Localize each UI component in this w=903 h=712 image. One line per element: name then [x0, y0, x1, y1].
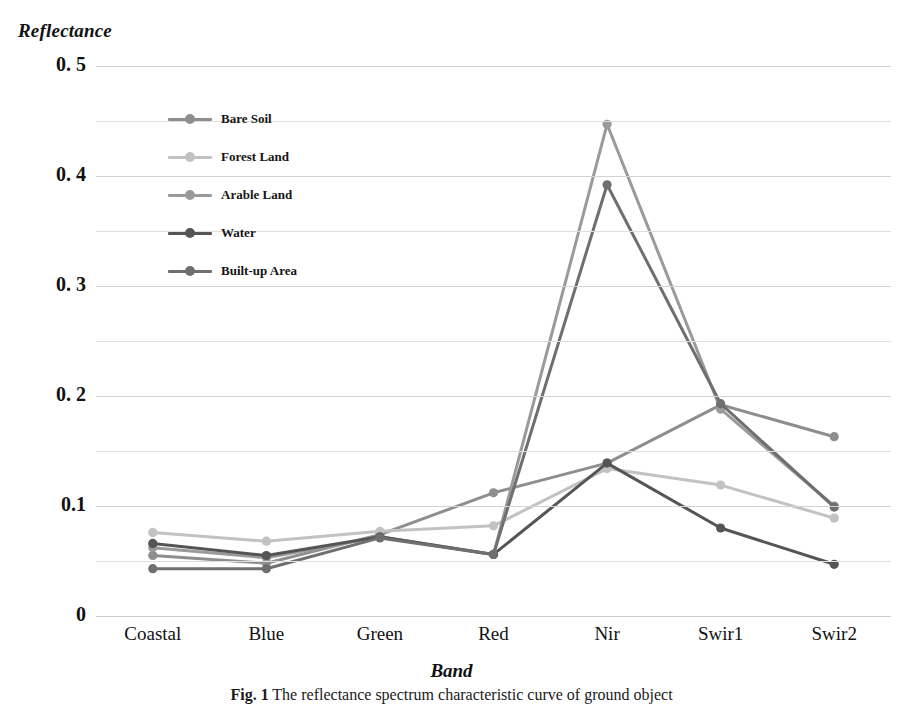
y-axis-tick-label: 0.1	[20, 493, 86, 516]
figure-container: Reflectance 0. 50. 40. 30. 20.10 Coastal…	[0, 0, 903, 712]
caption-label: Fig. 1	[230, 686, 268, 703]
gridline-major	[96, 396, 891, 397]
legend-swatch-icon	[168, 189, 212, 201]
gridline-major	[96, 506, 891, 507]
data-point-marker	[148, 564, 157, 573]
data-point-marker	[716, 399, 725, 408]
legend-label: Built-up Area	[221, 263, 297, 279]
gridline-minor	[96, 451, 891, 452]
data-point-marker	[489, 488, 498, 497]
y-axis-tick-label: 0. 4	[20, 163, 86, 186]
series-bare-soil	[148, 400, 839, 568]
data-point-marker	[830, 503, 839, 512]
legend-swatch-icon	[168, 227, 212, 239]
data-point-marker	[716, 481, 725, 490]
y-axis-tick-label: 0. 5	[20, 53, 86, 76]
legend-marker-dot	[185, 114, 195, 124]
x-axis-title: Band	[0, 660, 903, 682]
legend-item[interactable]: Water	[168, 214, 368, 252]
chart-legend: Bare SoilForest LandArable LandWaterBuil…	[168, 100, 368, 290]
legend-item[interactable]: Arable Land	[168, 176, 368, 214]
legend-swatch-icon	[168, 151, 212, 163]
gridline-major	[96, 66, 891, 67]
data-point-marker	[602, 180, 611, 189]
gridline-minor	[96, 561, 891, 562]
data-point-marker	[262, 551, 271, 560]
gridline-major	[96, 616, 891, 617]
legend-marker-dot	[185, 266, 195, 276]
data-point-marker	[489, 521, 498, 530]
data-point-marker	[489, 550, 498, 559]
legend-label: Forest Land	[221, 149, 289, 165]
y-axis-tick-label: 0. 3	[20, 273, 86, 296]
legend-label: Arable Land	[221, 187, 292, 203]
legend-item[interactable]: Built-up Area	[168, 252, 368, 290]
data-point-marker	[148, 539, 157, 548]
data-point-marker	[830, 514, 839, 523]
data-point-marker	[602, 459, 611, 468]
data-point-marker	[830, 432, 839, 441]
data-point-marker	[262, 537, 271, 546]
legend-marker-dot	[185, 152, 195, 162]
legend-swatch-icon	[168, 265, 212, 277]
legend-item[interactable]: Forest Land	[168, 138, 368, 176]
legend-marker-dot	[185, 190, 195, 200]
data-point-marker	[262, 564, 271, 573]
legend-item[interactable]: Bare Soil	[168, 100, 368, 138]
data-point-marker	[148, 528, 157, 537]
data-point-marker	[375, 533, 384, 542]
gridline-minor	[96, 341, 891, 342]
x-axis-tick-label: Swir2	[764, 623, 903, 645]
data-point-marker	[716, 523, 725, 532]
legend-swatch-icon	[168, 113, 212, 125]
y-axis-title: Reflectance	[18, 20, 112, 42]
legend-marker-dot	[185, 228, 195, 238]
y-axis-tick-label: 0. 2	[20, 383, 86, 406]
figure-caption: Fig. 1 The reflectance spectrum characte…	[0, 686, 903, 704]
legend-label: Bare Soil	[221, 111, 272, 127]
caption-text: The reflectance spectrum characteristic …	[272, 686, 672, 703]
y-axis-tick-label: 0	[20, 603, 86, 626]
legend-label: Water	[221, 225, 256, 241]
